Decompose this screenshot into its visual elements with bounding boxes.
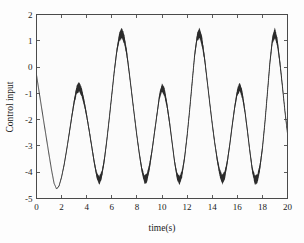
x-tick-label: 0 <box>34 202 39 212</box>
y-tick-label: 1 <box>28 36 33 46</box>
x-tick-label: 4 <box>84 202 89 212</box>
x-tick-label: 20 <box>283 202 293 212</box>
x-tick-label: 8 <box>135 202 140 212</box>
y-tick-label: -1 <box>25 89 33 99</box>
x-tick-label: 14 <box>208 202 218 212</box>
x-axis-title: time(s) <box>149 223 176 234</box>
x-tick-label: 18 <box>258 202 268 212</box>
control-input-plot: 02468101214161820 -5-4-3-2-1012 time(s) … <box>0 0 304 243</box>
y-axis-title: Control input <box>5 81 15 132</box>
y-tick-label: 2 <box>28 10 33 20</box>
y-tick-label: -2 <box>25 115 33 125</box>
y-tick-label: -5 <box>25 194 33 204</box>
chart-figure: 02468101214161820 -5-4-3-2-1012 time(s) … <box>0 0 304 243</box>
x-tick-label: 16 <box>233 202 243 212</box>
y-tick-label: -4 <box>25 167 33 177</box>
x-tick-label: 6 <box>110 202 115 212</box>
x-tick-label: 2 <box>59 202 64 212</box>
y-tick-label: 0 <box>28 62 33 72</box>
x-tick-label: 10 <box>158 202 168 212</box>
x-tick-label: 12 <box>183 202 192 212</box>
y-tick-label: -3 <box>25 141 33 151</box>
